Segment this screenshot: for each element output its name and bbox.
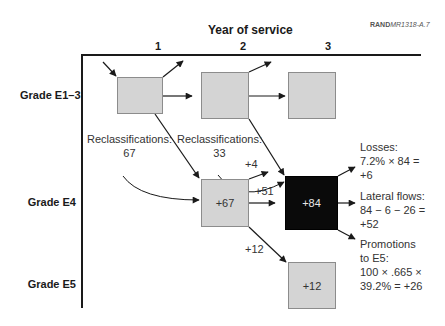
box-e1-3-year3 xyxy=(288,72,336,119)
column-label-1: 1 xyxy=(155,40,161,52)
flow-label-plus51: +51 xyxy=(255,184,274,198)
flow-label-plus12: +12 xyxy=(245,242,264,256)
x-axis-title: Year of service xyxy=(208,23,293,37)
reclassification-label-2: Reclassifications:33 xyxy=(177,132,262,160)
flow-label-plus4: +4 xyxy=(245,157,258,171)
promotions-note: Promotionsto E5:100 × .665 ×39.2% = +26 xyxy=(360,237,422,293)
column-label-3: 3 xyxy=(325,40,331,52)
reclassification-label-1: Reclassifications:67 xyxy=(87,132,172,160)
column-label-2: 2 xyxy=(240,40,246,52)
box-e1-3-year2 xyxy=(201,72,249,119)
figure-credit: RANDMR1318-A.7 xyxy=(370,21,430,28)
flow-diagram: RANDMR1318-A.7 Year of service 1 2 3 Gra… xyxy=(0,0,445,326)
row-label-e4: Grade E4 xyxy=(20,196,76,208)
box-e4-year3-highlight: +84 xyxy=(285,176,338,230)
losses-note: Losses:7.2% × 84 =+6 xyxy=(360,140,419,182)
row-label-e1-3: Grade E1–3 xyxy=(20,89,76,101)
lateral-flows-note: Lateral flows:84 − 6 − 26 =+52 xyxy=(360,189,425,231)
box-e1-3-year1 xyxy=(117,77,163,114)
box-e5-year3: +12 xyxy=(288,262,336,309)
box-e4-year2: +67 xyxy=(201,179,249,227)
row-label-e5: Grade E5 xyxy=(20,278,76,290)
